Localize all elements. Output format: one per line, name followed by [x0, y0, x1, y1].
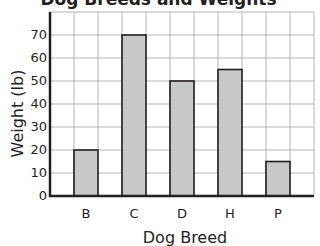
y-tick-label: 10	[25, 165, 47, 180]
x-category-label: C	[122, 206, 146, 221]
y-tick-label: 0	[25, 188, 47, 203]
y-tick-label: 40	[25, 96, 47, 111]
y-tick-label: 20	[25, 142, 47, 157]
bar-B	[74, 150, 98, 196]
x-category-label: H	[218, 206, 242, 221]
x-category-label: D	[170, 206, 194, 221]
y-tick-label: 60	[25, 50, 47, 65]
bar-D	[170, 81, 194, 196]
y-tick-label: 50	[25, 73, 47, 88]
x-category-label: B	[74, 206, 98, 221]
y-tick-label: 70	[25, 27, 47, 42]
y-tick-label: 30	[25, 119, 47, 134]
bar-P	[266, 162, 290, 197]
bar-H	[218, 70, 242, 197]
bar-C	[122, 35, 146, 196]
x-category-label: P	[266, 206, 290, 221]
